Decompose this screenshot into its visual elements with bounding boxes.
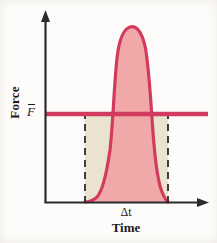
x-axis-label: Time	[96, 221, 156, 234]
delta-t-label: Δt	[96, 206, 156, 218]
y-axis-label: Force	[8, 75, 21, 131]
x-axis-arrowhead	[197, 198, 209, 207]
average-force-symbol: F	[27, 104, 35, 119]
average-force-label: F	[27, 104, 35, 118]
force-time-figure: Force F Δt Time	[0, 0, 217, 243]
y-axis-arrowhead	[41, 10, 50, 22]
